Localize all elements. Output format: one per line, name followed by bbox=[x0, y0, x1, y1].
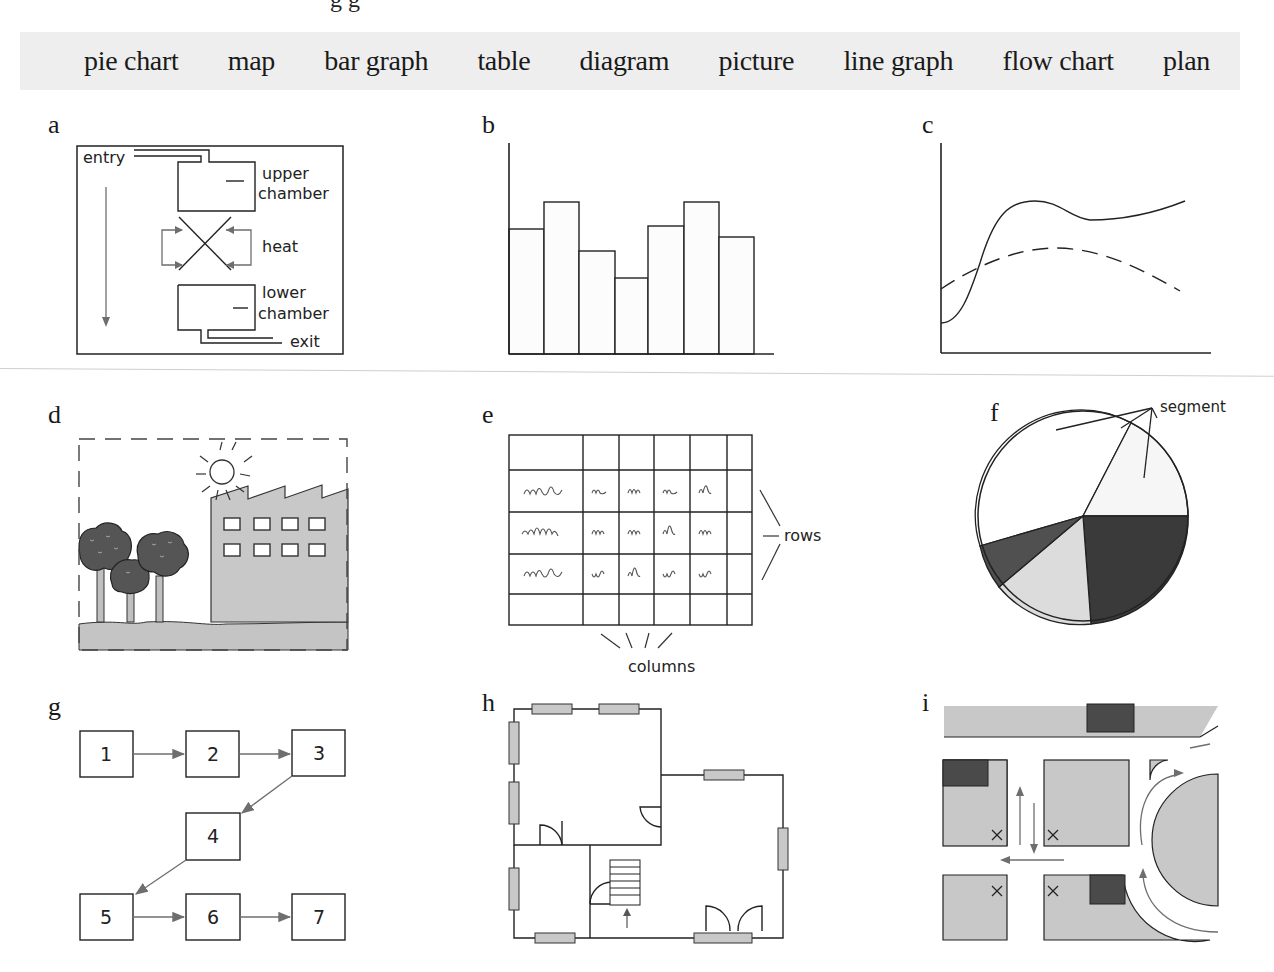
word-bank: pie chart map bar graph table diagram pi… bbox=[20, 32, 1240, 90]
line-graph-c bbox=[940, 143, 1212, 355]
word-flow-chart: flow chart bbox=[1002, 45, 1113, 77]
word-picture: picture bbox=[718, 45, 794, 77]
flow-box-7: 7 bbox=[313, 906, 325, 928]
flow-box-3: 3 bbox=[313, 742, 325, 764]
label-heat: heat bbox=[262, 237, 298, 256]
word-pie-chart: pie chart bbox=[84, 45, 178, 77]
label-segment: segment bbox=[1160, 398, 1226, 416]
floor-plan-h bbox=[506, 704, 796, 944]
word-bar-graph: bar graph bbox=[324, 45, 428, 77]
panel-letter-d: d bbox=[48, 400, 61, 430]
label-lower: lower bbox=[262, 283, 306, 302]
word-plan: plan bbox=[1163, 45, 1210, 77]
label-exit: exit bbox=[290, 332, 320, 351]
cut-off-heading: g g bbox=[330, 0, 360, 13]
flow-chart-g: 1 2 3 4 5 6 7 bbox=[76, 728, 356, 938]
map-i bbox=[940, 700, 1230, 950]
section-divider bbox=[0, 368, 1274, 377]
table-e: rows columns bbox=[508, 434, 838, 674]
panel-letter-i: i bbox=[922, 688, 929, 718]
flow-box-4: 4 bbox=[207, 825, 219, 847]
diagram-a: entry upper chamber heat lower chamber e… bbox=[76, 145, 356, 357]
panel-letter-c: c bbox=[922, 110, 934, 140]
panel-letter-e: e bbox=[482, 400, 494, 430]
bar-graph-b bbox=[506, 143, 776, 355]
word-map: map bbox=[228, 45, 275, 77]
label-upper: upper bbox=[262, 164, 309, 183]
panel-letter-a: a bbox=[48, 110, 60, 140]
label-columns: columns bbox=[628, 657, 695, 676]
panel-letter-h: h bbox=[482, 688, 495, 718]
label-entry: entry bbox=[83, 148, 125, 167]
flow-box-6: 6 bbox=[207, 906, 219, 928]
panel-letter-b: b bbox=[482, 110, 495, 140]
flow-box-1: 1 bbox=[100, 743, 112, 765]
word-table: table bbox=[477, 45, 530, 77]
word-line-graph: line graph bbox=[843, 45, 953, 77]
label-lower-chamber: chamber bbox=[258, 304, 329, 323]
panel-letter-g: g bbox=[48, 692, 61, 722]
word-diagram: diagram bbox=[580, 45, 670, 77]
flow-box-2: 2 bbox=[207, 743, 219, 765]
pie-chart-f: segment bbox=[976, 398, 1266, 638]
label-rows: rows bbox=[784, 526, 821, 545]
picture-d bbox=[76, 436, 350, 652]
label-upper-chamber: chamber bbox=[258, 184, 329, 203]
flow-box-5: 5 bbox=[100, 906, 112, 928]
